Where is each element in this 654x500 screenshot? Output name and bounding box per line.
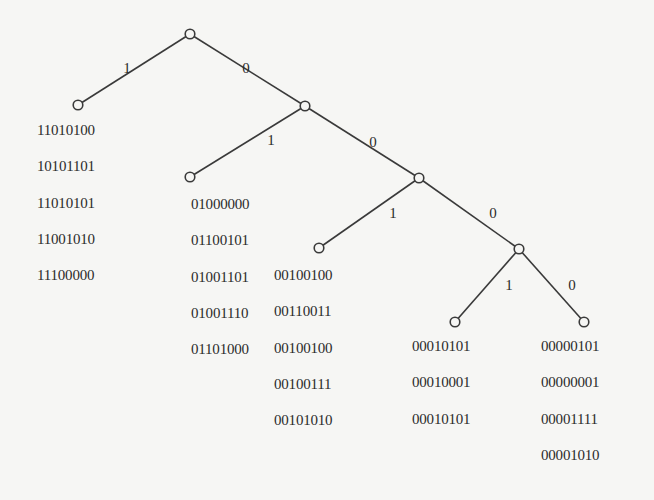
edge-label-n0: 0 — [242, 61, 250, 76]
leaf-code-n001: 00110011 — [274, 303, 331, 319]
tree-node-n0 — [300, 101, 310, 111]
leaf-code-n1: 10101101 — [37, 158, 95, 174]
tree-edge-n1 — [78, 34, 190, 105]
leaf-code-n001: 00101010 — [274, 412, 332, 428]
tree-edge-n001 — [319, 178, 419, 248]
tree-node-n0001 — [450, 317, 460, 327]
tree-node-root — [185, 29, 195, 39]
edge-label-n01: 1 — [267, 133, 275, 148]
leaf-code-n001: 00100100 — [274, 340, 332, 356]
tree-node-n01 — [185, 172, 195, 182]
tree-edge-n000 — [419, 178, 519, 249]
leaf-code-n1: 11010101 — [37, 195, 95, 211]
tree-node-n1 — [73, 100, 83, 110]
tree-node-n00 — [414, 173, 424, 183]
leaf-code-n001: 00100100 — [274, 267, 332, 283]
edge-label-n0001: 1 — [505, 278, 513, 293]
edge-label-n000: 0 — [489, 206, 497, 221]
edge-label-n0000: 0 — [568, 278, 576, 293]
leaf-code-n1: 11001010 — [37, 231, 95, 247]
leaf-code-n001: 00100111 — [274, 376, 331, 392]
tree-edge-n00 — [305, 106, 419, 178]
leaf-code-n0001: 00010001 — [412, 374, 470, 390]
leaf-code-n0000: 00001111 — [541, 411, 598, 427]
leaf-code-n0000: 00000001 — [541, 374, 599, 390]
leaf-code-n01: 01001101 — [191, 269, 249, 285]
leaf-code-n0001: 00010101 — [412, 411, 470, 427]
leaf-code-n1: 11010100 — [37, 122, 95, 138]
leaf-code-n01: 01101000 — [191, 341, 249, 357]
leaf-code-n1: 11100000 — [37, 267, 94, 283]
tree-node-n000 — [514, 244, 524, 254]
edge-label-n00: 0 — [369, 135, 377, 150]
tree-node-n0000 — [579, 317, 589, 327]
leaf-code-n01: 01100101 — [191, 232, 249, 248]
edge-label-n001: 1 — [389, 206, 397, 221]
tree-edge-n01 — [190, 106, 305, 177]
leaf-code-n0001: 00010101 — [412, 338, 470, 354]
tree-node-n001 — [314, 243, 324, 253]
leaf-code-n0000: 00001010 — [541, 447, 599, 463]
edge-label-n1: 1 — [123, 61, 131, 76]
leaf-code-n01: 01001110 — [191, 305, 248, 321]
leaf-code-n01: 01000000 — [191, 196, 249, 212]
leaf-code-n0000: 00000101 — [541, 338, 599, 354]
